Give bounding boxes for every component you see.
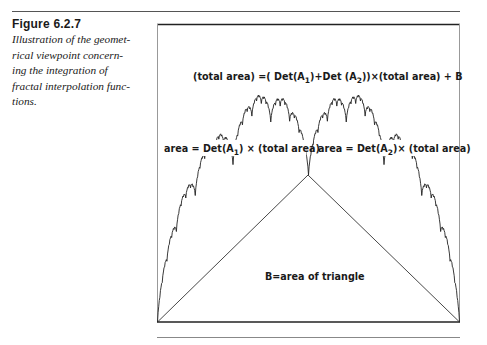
fractal-curve [158,95,460,322]
triangle-area-label: B=area of triangle [265,271,365,282]
total-area-equation: (total area) =( Det(A1)+Det (A2))×(total… [193,71,463,85]
triangle [158,175,460,322]
figure-diagram: (total area) =( Det(A1)+Det (A2))×(total… [0,0,487,345]
